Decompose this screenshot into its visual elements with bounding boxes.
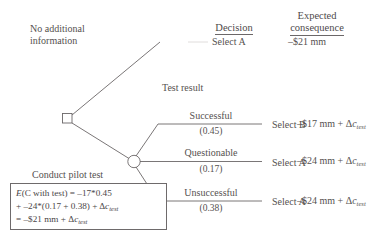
no-additional-information-label: No additional information	[30, 23, 85, 47]
formula-line-1: E(C with test) = –17*0.45	[16, 187, 161, 200]
outcome-successful-probability: (0.45)	[163, 126, 259, 137]
consequence-text-questionable: –$24 mm + Δ	[297, 155, 352, 166]
expected-cost-formula-box: E(C with test) = –17*0.45 + –24*(0.17 + …	[10, 183, 167, 230]
outcome-unsuccessful-name: Unsuccessful	[158, 187, 264, 199]
consequence-value-questionable: –$24 mm + Δctest	[297, 155, 366, 167]
formula-line-2: + –24*(0.17 + 0.38) + Δctest	[16, 200, 161, 213]
test-result-group-label: Test result	[162, 82, 203, 94]
consequence-sub-questionable: test	[357, 160, 366, 167]
edge-no-additional-information	[72, 42, 160, 115]
formula-line-3: = –$21 mm + Δctest	[16, 213, 161, 226]
consequence-sub-unsuccessful: test	[357, 200, 366, 207]
decision-square-node	[63, 114, 73, 124]
consequence-value-unsuccessful: –$24 mm + Δctest	[297, 195, 366, 207]
formula-line3-text: = –$21 mm + Δ	[16, 214, 74, 224]
top-branch-decision-value: Select A	[212, 36, 246, 48]
consequence-column-header: Expected consequence	[278, 10, 356, 36]
conduct-pilot-test-label: Conduct pilot test	[32, 169, 103, 181]
top-branch-consequence-value: –$21 mm	[288, 36, 326, 48]
chance-circle-node	[128, 155, 140, 167]
formula-line2-text: + –24*(0.17 + 0.38) + Δ	[16, 201, 105, 211]
consequence-var-questionable: c	[352, 155, 356, 166]
consequence-sub-successful: test	[357, 123, 366, 130]
decision-column-header: Decision	[206, 22, 262, 35]
consequence-var-successful: c	[352, 118, 356, 129]
outcome-questionable-probability: (0.17)	[158, 164, 264, 175]
outcome-questionable-name: Questionable	[158, 147, 264, 159]
consequence-text-successful: –$17 mm + Δ	[297, 118, 352, 129]
consequence-var-unsuccessful: c	[352, 195, 356, 206]
formula-line3-sub: test	[78, 218, 87, 225]
edge-conduct-pilot-test	[72, 123, 133, 161]
outcome-successful-name: Successful	[163, 110, 259, 122]
consequence-value-successful: –$17 mm + Δctest	[297, 118, 366, 130]
formula-line2-sub: test	[109, 205, 118, 212]
decision-tree-diagram: Decision Expected consequence No additio…	[0, 0, 370, 241]
outcome-unsuccessful-probability: (0.38)	[158, 203, 264, 214]
formula-line1-rest: (C with test) = –17*0.45	[22, 188, 112, 198]
consequence-text-unsuccessful: –$24 mm + Δ	[297, 195, 352, 206]
